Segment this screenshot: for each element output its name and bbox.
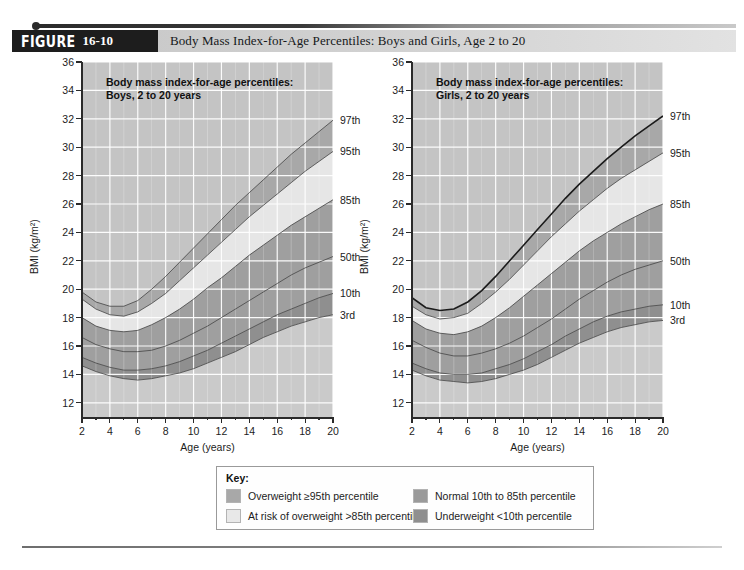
figure-title: Body Mass Index-for-Age Percentiles: Boy… <box>170 30 525 52</box>
y-tick-label: 24 <box>50 226 74 238</box>
y-axis-title: BMI (kg/m²) <box>358 219 370 274</box>
y-tick <box>76 402 82 403</box>
y-tick-label: 30 <box>50 141 74 153</box>
x-tick-label: 18 <box>299 425 311 437</box>
x-tick <box>123 417 124 420</box>
x-tick <box>137 417 138 423</box>
x-tick <box>179 417 180 420</box>
y-tick <box>406 232 412 233</box>
y-tick-label: 20 <box>380 283 404 295</box>
x-tick <box>537 417 538 420</box>
x-tick-label: 6 <box>135 425 141 437</box>
figure-tag: FIGURE 16-10 <box>12 30 158 52</box>
x-tick-label: 8 <box>493 425 499 437</box>
y-tick <box>406 61 412 62</box>
x-tick-label: 16 <box>601 425 613 437</box>
legend-key: Key: Overweight ≥95th percentile At risk… <box>216 466 594 530</box>
x-tick <box>207 417 208 420</box>
y-tick <box>76 203 82 204</box>
percentile-label-95th: 95th <box>670 147 690 159</box>
x-tick-label: 2 <box>79 425 85 437</box>
y-tick-label: 18 <box>50 312 74 324</box>
y-tick-label: 30 <box>380 141 404 153</box>
x-tick <box>249 417 250 423</box>
x-tick-label: 20 <box>657 425 669 437</box>
legend-swatch-normal <box>413 489 428 503</box>
x-tick-label: 12 <box>216 425 228 437</box>
y-tick-label: 20 <box>50 283 74 295</box>
legend-item-at-risk: At risk of overweight >85th percentile <box>226 509 420 523</box>
x-tick <box>277 417 278 423</box>
x-tick <box>662 417 663 423</box>
x-tick <box>263 417 264 420</box>
y-axis-line <box>81 62 83 417</box>
y-tick-label: 16 <box>380 340 404 352</box>
legend-title: Key: <box>226 472 249 484</box>
y-tick <box>406 175 412 176</box>
x-tick <box>593 417 594 420</box>
x-tick <box>151 417 152 420</box>
x-tick <box>635 417 636 423</box>
x-tick <box>621 417 622 420</box>
legend-item-underweight: Underweight <10th percentile <box>413 509 572 523</box>
y-tick <box>76 118 82 119</box>
percentile-label-50th: 50th <box>670 255 690 267</box>
chart-inner-title: Body mass index-for-age percentiles: Gir… <box>436 76 623 103</box>
x-tick <box>318 417 319 420</box>
y-tick <box>76 232 82 233</box>
x-tick <box>481 417 482 420</box>
legend-label-normal: Normal 10th to 85th percentile <box>435 490 576 502</box>
charts-container: 1214161820222426283032343624681012141618… <box>0 56 744 456</box>
x-tick <box>509 417 510 420</box>
x-tick-label: 12 <box>546 425 558 437</box>
x-tick-label: 10 <box>518 425 530 437</box>
y-tick-label: 12 <box>380 397 404 409</box>
x-tick <box>607 417 608 423</box>
x-tick <box>648 417 649 420</box>
legend-item-normal: Normal 10th to 85th percentile <box>413 489 576 503</box>
y-tick-label: 36 <box>50 56 74 68</box>
y-tick-label: 28 <box>50 170 74 182</box>
x-axis-title: Age (years) <box>412 441 663 453</box>
y-tick-label: 16 <box>50 340 74 352</box>
y-axis-line <box>411 62 413 417</box>
x-tick-label: 4 <box>107 425 113 437</box>
x-tick-label: 14 <box>243 425 255 437</box>
y-tick-label: 24 <box>380 226 404 238</box>
y-tick <box>406 374 412 375</box>
y-tick-label: 12 <box>50 397 74 409</box>
x-tick-label: 6 <box>465 425 471 437</box>
y-tick <box>76 289 82 290</box>
plot-area: 1214161820222426283032343624681012141618… <box>412 62 663 417</box>
y-tick-label: 36 <box>380 56 404 68</box>
x-tick-label: 20 <box>327 425 339 437</box>
x-tick-label: 8 <box>163 425 169 437</box>
x-tick <box>439 417 440 423</box>
y-tick <box>406 90 412 91</box>
figure-word: FIGURE <box>21 32 76 50</box>
legend-swatch-overweight <box>226 489 241 503</box>
x-tick <box>453 417 454 420</box>
y-tick-label: 22 <box>50 255 74 267</box>
x-tick <box>235 417 236 420</box>
y-tick <box>406 402 412 403</box>
x-tick-label: 2 <box>409 425 415 437</box>
legend-item-overweight: Overweight ≥95th percentile <box>226 489 379 503</box>
y-tick-label: 34 <box>380 84 404 96</box>
legend-label-at-risk: At risk of overweight >85th percentile <box>248 510 420 522</box>
header-top-rule <box>36 24 736 28</box>
y-tick-label: 28 <box>380 170 404 182</box>
figure-number: 16-10 <box>83 33 113 49</box>
x-tick <box>305 417 306 423</box>
y-tick <box>76 260 82 261</box>
y-tick <box>406 260 412 261</box>
percentile-label-10th: 10th <box>670 299 690 311</box>
x-tick <box>193 417 194 423</box>
x-tick <box>425 417 426 420</box>
percentile-label-85th: 85th <box>670 198 690 210</box>
x-tick <box>95 417 96 420</box>
y-tick-label: 18 <box>380 312 404 324</box>
x-tick <box>221 417 222 423</box>
percentile-label-97th: 97th <box>670 110 690 122</box>
y-axis-title: BMI (kg/m²) <box>28 219 40 274</box>
